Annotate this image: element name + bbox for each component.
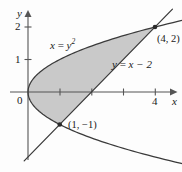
y-axis-label: y <box>17 8 22 19</box>
x-axis-label: x <box>172 96 177 107</box>
y-axis-arrow <box>25 10 32 17</box>
y-tick-label-1: 1 <box>15 54 21 65</box>
point-label-1-neg1: (1, −1) <box>68 120 97 131</box>
point-label-4-2: (4, 2) <box>157 34 180 45</box>
parabola-eq-exponent: 2 <box>72 37 76 46</box>
parabola-equation-label: x = y2 <box>50 38 75 51</box>
y-tick-label-2: 2 <box>15 21 21 32</box>
line-eq-sign: = <box>117 58 129 70</box>
parabola-eq-sign: = <box>55 39 67 51</box>
shaded-region-fill <box>28 27 155 125</box>
line-eq-rhs: x − 2 <box>129 58 152 70</box>
point-4-2 <box>153 25 158 30</box>
x-tick-label-4: 4 <box>152 96 158 107</box>
origin-label: 0 <box>17 95 23 106</box>
point-1-neg1 <box>57 122 62 127</box>
math-figure: x y 0 1 2 4 x = y2 y = x − 2 (4, 2) (1, … <box>0 0 182 172</box>
line-equation-label: y = x − 2 <box>112 59 152 70</box>
figure-canvas <box>0 0 182 172</box>
